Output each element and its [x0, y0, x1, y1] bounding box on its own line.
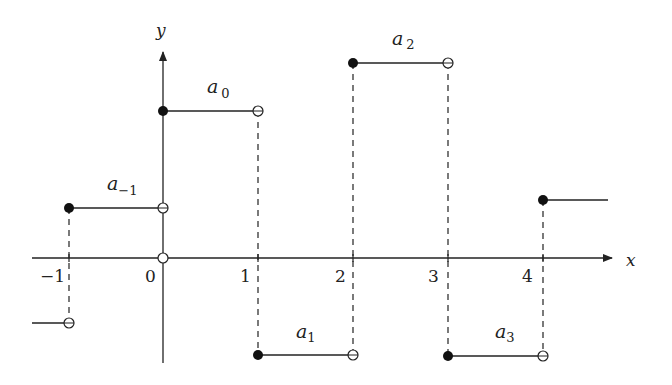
- label-a3: a3: [495, 320, 515, 345]
- x-axis-label: x: [626, 250, 636, 270]
- tick-label-neg1: −1: [40, 266, 65, 286]
- closed-endpoints: [64, 58, 548, 361]
- tick-label-3: 3: [428, 266, 439, 286]
- tick-label-1: 1: [240, 266, 251, 286]
- label-a1: a1: [296, 320, 316, 345]
- label-a-minus1: a−1: [107, 172, 138, 198]
- tick-label-0: 0: [145, 266, 156, 286]
- open-endpoints: [64, 58, 548, 361]
- open-endpoint-bars: [64, 63, 548, 356]
- tick-label-4: 4: [522, 266, 533, 286]
- label-a2: a2: [392, 27, 415, 52]
- y-axis-label: y: [155, 20, 166, 40]
- step-segments: [32, 63, 608, 356]
- step-function-diagram: x y −1 0 1 2 3 4: [0, 0, 672, 385]
- label-a0: a0: [207, 75, 230, 101]
- dashed-guides: [69, 63, 543, 356]
- tick-label-2: 2: [335, 266, 346, 286]
